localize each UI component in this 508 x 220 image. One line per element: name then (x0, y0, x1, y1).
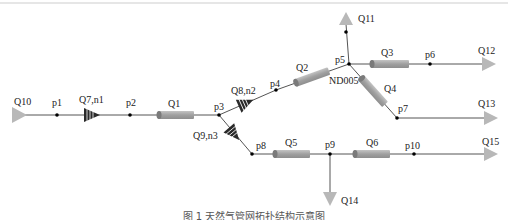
node-dot-icon (347, 62, 351, 66)
label-p2: p2 (126, 97, 136, 108)
figure-caption: 图 1 天然气管网拓扑结构示意图 (0, 208, 508, 220)
arrow-right-icon (12, 107, 27, 123)
arrow-right-icon (482, 57, 496, 71)
node-dot-icon (250, 152, 254, 156)
node-p2[interactable]: p2 (126, 97, 136, 117)
label-q11: Q11 (358, 13, 375, 24)
sink-arrow-q12[interactable]: Q12 (478, 45, 496, 71)
node-q11-outlet (344, 30, 348, 34)
node-p9[interactable]: p9 (325, 139, 335, 156)
node-dot-icon (217, 113, 221, 117)
label-q7-n1: Q7,n1 (79, 94, 104, 105)
label-p10: p10 (405, 140, 420, 151)
label-q14: Q14 (341, 195, 358, 206)
arrow-right-icon (484, 111, 498, 125)
pipe-icon (274, 150, 310, 158)
arrow-right-icon (484, 147, 498, 161)
label-q3: Q3 (381, 47, 393, 58)
label-q1: Q1 (168, 98, 180, 109)
node-dot-icon (428, 62, 432, 66)
pipe-q3[interactable]: Q3 (370, 47, 410, 68)
connection-lines (22, 24, 490, 196)
sink-arrow-q14[interactable]: Q14 (323, 192, 358, 206)
pipe-q6[interactable]: Q6 (353, 137, 391, 158)
label-p6: p6 (425, 49, 435, 60)
network-diagram: Q10 Q11 Q12 Q13 Q14 Q15 Q1 Q2 Q3 Q4 (0, 0, 508, 220)
node-p10[interactable]: p10 (405, 140, 420, 156)
node-p6[interactable]: p6 (425, 49, 435, 66)
label-q12: Q12 (478, 45, 495, 56)
sink-arrow-q11[interactable]: Q11 (339, 12, 375, 25)
source-arrow-q10[interactable]: Q10 (12, 96, 31, 123)
label-p8: p8 (256, 140, 266, 151)
pipe-icon (371, 60, 409, 68)
label-p9: p9 (325, 139, 335, 150)
label-p4: p4 (270, 78, 280, 89)
compressor-q9[interactable]: Q9,n3 (193, 123, 245, 144)
node-dot-icon (128, 113, 132, 117)
sink-arrow-q13[interactable]: Q13 (478, 98, 498, 125)
pipe-icon (354, 150, 390, 158)
arrow-down-icon (323, 192, 337, 206)
label-q8-n2: Q8,n2 (231, 85, 256, 96)
label-q6: Q6 (366, 137, 378, 148)
node-dot-icon (395, 116, 399, 120)
compressor-icon (84, 108, 100, 122)
label-p5: p5 (335, 54, 345, 65)
label-p1: p1 (52, 97, 62, 108)
node-p4[interactable]: p4 (270, 78, 280, 92)
label-p3: p3 (214, 101, 224, 112)
label-q13: Q13 (478, 98, 495, 109)
compressor-icon (236, 93, 256, 112)
pipe-q1[interactable]: Q1 (157, 98, 195, 119)
node-dot-icon (328, 152, 332, 156)
sink-arrow-q15[interactable]: Q15 (482, 136, 499, 161)
node-p8[interactable]: p8 (250, 140, 266, 156)
node-p1[interactable]: p1 (52, 97, 62, 117)
label-q4: Q4 (384, 83, 396, 94)
node-p3[interactable]: p3 (214, 101, 224, 117)
label-nd005: ND005 (329, 75, 358, 86)
label-q2: Q2 (296, 62, 308, 73)
pipe-icon (158, 111, 194, 119)
node-dot-icon (344, 30, 348, 34)
label-q10: Q10 (14, 96, 31, 107)
node-p7[interactable]: p7 (395, 103, 408, 120)
arrow-up-icon (339, 12, 353, 25)
pipe-q5[interactable]: Q5 (273, 137, 311, 158)
label-p7: p7 (398, 103, 408, 114)
node-dot-icon (412, 152, 416, 156)
label-q9-n3: Q9,n3 (193, 130, 218, 141)
label-q5: Q5 (285, 137, 297, 148)
node-dot-icon (55, 113, 59, 117)
compressor-q7[interactable]: Q7,n1 (79, 94, 104, 122)
label-q15: Q15 (482, 136, 499, 147)
